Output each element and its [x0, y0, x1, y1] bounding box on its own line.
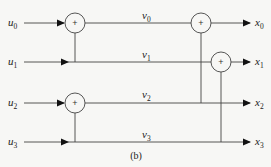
- adder-stage1-bottom: +: [65, 93, 85, 113]
- plus-icon: +: [198, 18, 203, 28]
- input-label-u1: u1: [8, 55, 18, 70]
- intermediate-label-v1: v1: [142, 48, 151, 63]
- intermediate-label-v3: v3: [142, 128, 151, 143]
- plus-icon: +: [72, 98, 77, 108]
- output-label-x0: x0: [254, 16, 264, 31]
- adder-stage1-top: +: [65, 13, 85, 33]
- adder-stage2-x0: +: [191, 13, 211, 33]
- figure-caption: (b): [130, 150, 142, 162]
- intermediate-label-v2: v2: [142, 88, 151, 103]
- intermediate-label-v0: v0: [142, 9, 151, 24]
- plus-icon: +: [72, 18, 77, 28]
- output-label-x3: x3: [254, 135, 264, 150]
- input-label-u0: u0: [8, 16, 18, 31]
- adder-stage2-x1: +: [211, 52, 231, 72]
- output-label-x2: x2: [254, 96, 264, 111]
- output-label-x1: x1: [254, 55, 264, 70]
- input-label-u2: u2: [8, 96, 18, 111]
- plus-icon: +: [218, 57, 223, 67]
- input-label-u3: u3: [8, 135, 18, 150]
- butterfly-diagram: u0 u1 u2 u3 + + +: [0, 0, 271, 167]
